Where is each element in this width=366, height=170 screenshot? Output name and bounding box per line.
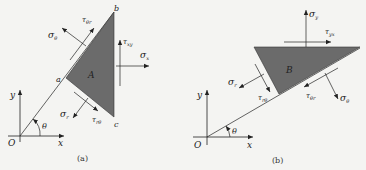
caption-a: (a) (77, 154, 88, 163)
origin-label: O (194, 140, 202, 150)
axes-a (8, 90, 64, 142)
sigma-r-arrow (239, 74, 264, 88)
vertex-a-label: a (56, 75, 61, 84)
y-axis-label: y (9, 90, 16, 100)
tau-theta-r-label: τθr (82, 16, 92, 25)
sigma-y-label: σy (309, 9, 318, 21)
angle-label: θ (232, 127, 237, 136)
origin-label: O (8, 138, 16, 148)
angle-label: θ (42, 122, 47, 131)
sigma-theta-label: σθ (48, 30, 57, 41)
caption-b: (b) (272, 156, 283, 165)
vertex-b-label: b (114, 4, 119, 13)
tau-theta-r-label: τθr (306, 92, 316, 101)
element-b-label: B (285, 65, 293, 75)
element-a (66, 12, 114, 117)
tau-yx-label: τyx (325, 28, 335, 38)
panel-b: O x y θ B σy τyx τrθ σr τθr σθ (b) (193, 9, 360, 165)
sigma-x-label: σx (140, 50, 149, 61)
tau-r-theta-label: τrθ (258, 94, 267, 103)
vertex-c-label: c (114, 120, 119, 129)
sigma-r-label: σr (60, 109, 69, 120)
sigma-theta-arrow (325, 73, 338, 99)
angle-arc (226, 126, 230, 137)
stress-element-diagram: O x y θ A a b c σθ τθr τxy σx τrθ σr (a) (0, 0, 366, 170)
sigma-r-label: σr (228, 77, 237, 88)
x-axis-label: x (58, 138, 63, 148)
panel-a: O x y θ A a b c σθ τθr τxy σx τrθ σr (a) (8, 4, 149, 163)
element-b (254, 47, 360, 94)
sigma-theta-label: σθ (340, 93, 349, 104)
element-a-label: A (87, 70, 95, 80)
sigma-r-arrow (73, 98, 88, 118)
y-axis-label: y (196, 90, 203, 100)
tau-r-theta-label: τrθ (92, 116, 101, 125)
x-axis-label: x (247, 140, 252, 150)
angle-arc (33, 119, 40, 136)
tau-xy-label: τxy (123, 38, 133, 48)
